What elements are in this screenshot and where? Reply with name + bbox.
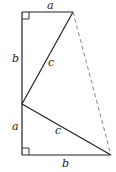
label-bottom-b: b [62, 157, 69, 170]
label-left-b: b [12, 52, 19, 65]
dashed-edge [73, 12, 111, 155]
label-upper-c: c [48, 56, 54, 69]
label-top-a: a [47, 0, 54, 12]
right-angle-marker-top [22, 12, 29, 19]
label-lower-c: c [55, 124, 61, 137]
trapezoid-diagram: a b c a c b [0, 0, 116, 172]
right-angle-marker-bottom [22, 148, 29, 155]
label-left-a: a [12, 120, 19, 133]
lower-hypotenuse [22, 104, 111, 155]
